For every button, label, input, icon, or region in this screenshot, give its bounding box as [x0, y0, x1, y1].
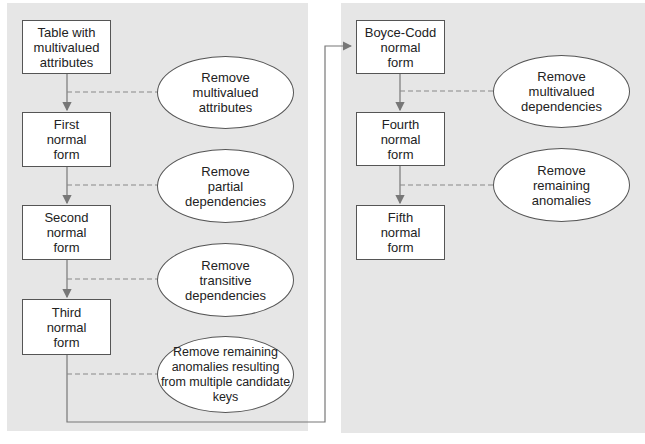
box-table-multivalued: Table with multivalued attributes	[22, 20, 111, 74]
step-remove-candidate-key-anomalies: Remove remaining anomalies resulting fro…	[157, 336, 294, 413]
box-first-normal-form: First normal form	[22, 112, 111, 167]
box-second-normal-form: Second normal form	[22, 205, 111, 260]
step-remove-partial-dependencies: Remove partial dependencies	[157, 149, 294, 223]
step-remove-multivalued-attributes: Remove multivalued attributes	[157, 56, 294, 129]
box-boyce-codd-normal-form: Boyce-Codd normal form	[356, 20, 445, 74]
step-remove-remaining-anomalies: Remove remaining anomalies	[493, 148, 630, 222]
step-remove-transitive-dependencies: Remove transitive dependencies	[157, 243, 294, 317]
box-fifth-normal-form: Fifth normal form	[356, 205, 445, 260]
box-third-normal-form: Third normal form	[22, 299, 111, 355]
step-remove-multivalued-dependencies: Remove multivalued dependencies	[493, 55, 630, 128]
box-fourth-normal-form: Fourth normal form	[356, 112, 445, 166]
